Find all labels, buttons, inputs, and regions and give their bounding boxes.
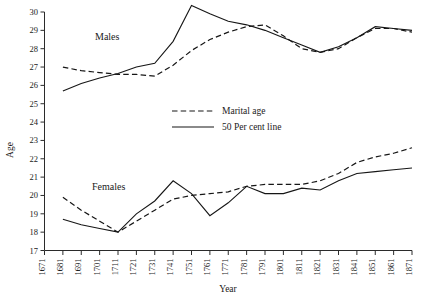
x-tick-label: 1811 <box>294 259 304 276</box>
y-tick-label: 29 <box>30 25 39 35</box>
y-tick-label: 27 <box>30 62 39 72</box>
y-tick-label: 17 <box>30 246 39 256</box>
x-tick-label: 1781 <box>239 259 249 276</box>
y-tick-label: 19 <box>30 209 39 219</box>
x-tick-label: 1701 <box>92 259 102 276</box>
x-tick-label: 1801 <box>275 259 285 276</box>
series-line <box>63 6 412 91</box>
x-tick-label: 1711 <box>110 259 120 276</box>
x-tick-label: 1871 <box>404 259 414 276</box>
x-tick-label: 1761 <box>202 259 212 276</box>
x-tick-label: 1861 <box>386 259 396 276</box>
x-tick-label: 1791 <box>257 259 267 276</box>
x-axis-ticks: 1671168116911701171117211731174117511761… <box>37 251 415 276</box>
y-tick-label: 25 <box>30 99 39 109</box>
series-line <box>63 168 412 232</box>
y-tick-label: 28 <box>30 44 39 54</box>
chart-canvas: 1718192021222324252627282930 16711681169… <box>0 0 422 298</box>
x-axis-title: Year <box>219 284 237 294</box>
x-tick-label: 1731 <box>147 259 157 276</box>
y-axis-ticks: 1718192021222324252627282930 <box>30 7 45 256</box>
y-tick-label: 18 <box>30 227 39 237</box>
legend-label: 50 Per cent line <box>222 122 281 132</box>
y-tick-label: 20 <box>30 190 39 200</box>
x-tick-label: 1841 <box>349 259 359 276</box>
x-tick-label: 1681 <box>55 259 65 276</box>
x-tick-label: 1671 <box>37 259 47 276</box>
y-tick-label: 23 <box>30 135 39 145</box>
y-tick-label: 30 <box>30 7 39 17</box>
females-label: Females <box>92 181 125 192</box>
x-tick-label: 1741 <box>165 259 175 276</box>
marital-age-line-chart: 1718192021222324252627282930 16711681169… <box>0 0 422 298</box>
x-axis: 1671168116911701171117211731174117511761… <box>37 251 415 276</box>
x-tick-label: 1751 <box>184 259 194 276</box>
x-tick-label: 1851 <box>367 259 377 276</box>
y-tick-label: 24 <box>30 117 39 127</box>
x-tick-label: 1721 <box>128 259 138 276</box>
x-tick-label: 1771 <box>220 259 230 276</box>
y-axis-title: Age <box>5 142 15 158</box>
y-tick-label: 21 <box>30 172 39 182</box>
x-tick-label: 1821 <box>312 259 322 276</box>
x-tick-label: 1691 <box>73 259 83 276</box>
males-label: Males <box>95 31 120 42</box>
y-tick-label: 26 <box>30 80 39 90</box>
legend-label: Marital age <box>222 106 266 116</box>
series-group-labels: MalesFemales <box>92 31 125 192</box>
chart-legend: Marital age50 Per cent line <box>172 106 281 132</box>
y-axis: 1718192021222324252627282930 <box>30 7 45 256</box>
y-tick-label: 22 <box>30 154 39 164</box>
x-tick-label: 1831 <box>331 259 341 276</box>
